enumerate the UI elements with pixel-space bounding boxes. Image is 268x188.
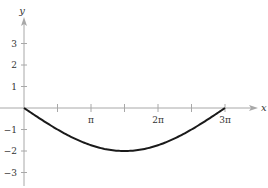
x-tick-label: 2π — [152, 115, 164, 125]
y-tick-label: 3 — [11, 39, 17, 49]
y-tick-label: −1 — [4, 125, 17, 135]
x-tick-label: 3π — [219, 115, 231, 125]
x-axis-label: x — [261, 102, 267, 113]
y-axis-label: y — [18, 5, 25, 16]
y-tick-label: 2 — [11, 60, 17, 70]
y-tick-label: 1 — [11, 82, 17, 92]
chart: π2π3π321−1−2−3 x y — [0, 0, 268, 188]
x-tick-label: π — [88, 115, 94, 125]
y-tick-label: −3 — [4, 168, 18, 178]
y-tick-label: −2 — [4, 146, 17, 156]
axes — [0, 17, 258, 186]
function-curve — [24, 108, 225, 151]
